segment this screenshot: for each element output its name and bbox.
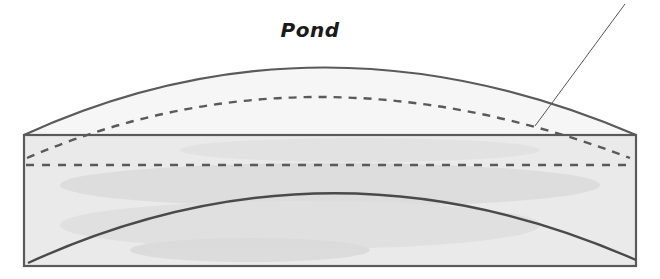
leader-line: [535, 4, 625, 126]
pond-diagram: Pond: [0, 0, 660, 279]
diagram-title: Pond: [260, 18, 360, 42]
